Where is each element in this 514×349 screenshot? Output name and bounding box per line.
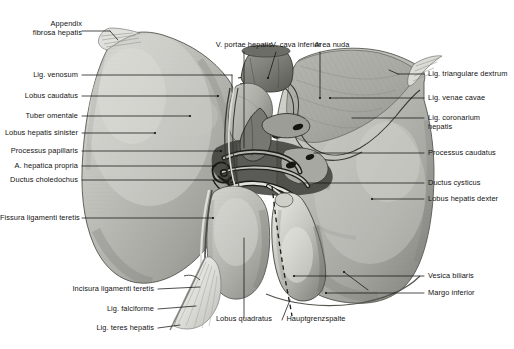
label-lobus-hepatis-sinister: Lobus hepatis sinister [0, 129, 78, 138]
label-processus-papillaris: Processus papillaris [0, 147, 78, 156]
label-vesica-biliaris: Vesica biliaris [428, 272, 514, 281]
label-lobus-hepatis-dexter: Lobus hepatis dexter [428, 195, 514, 204]
label-appendix-fibrosa-hepatis: Appendix fibrosa hepatis [0, 20, 82, 37]
label-incisura-ligamenti-teretis: Incisura ligamenti teretis [0, 285, 154, 294]
label-ductus-cysticus: Ductus cysticus [428, 179, 514, 188]
label-ductus-choledochus: Ductus choledochus [0, 176, 78, 185]
label-lig-venosum: Lig. venosum [0, 71, 78, 80]
label-margo-inferior: Margo inferior [428, 289, 514, 298]
label-fissura-ligamenti-teretis: Fissura ligamenti teretis [0, 214, 78, 223]
anatomy-figure: Appendix fibrosa hepatis Lig. venosum Lo… [0, 0, 514, 349]
label-lig-venae-cavae: Lig. venae cavae [428, 94, 514, 103]
label-hauptgrenzspalte: Hauptgrenzspalte [268, 315, 364, 324]
label-lig-triangulare-dextrum: Lig. triangulare dextrum [428, 70, 514, 79]
label-tuber-omentale: Tuber omentale [0, 112, 78, 121]
label-lig-teres-hepatis: Lig. teres hepatis [0, 324, 154, 333]
label-area-nuda: Area nuda [292, 41, 372, 50]
label-lig-coronarium-hepatis: Lig. coronarium hepatis [428, 114, 514, 131]
label-lobus-caudatus: Lobus caudatus [0, 92, 78, 101]
label-a-hepatica-propria: A. hepatica propria [0, 162, 78, 171]
label-lig-falciforme: Lig. falciforme [0, 305, 154, 314]
label-processus-caudatus: Processus caudatus [428, 149, 514, 158]
